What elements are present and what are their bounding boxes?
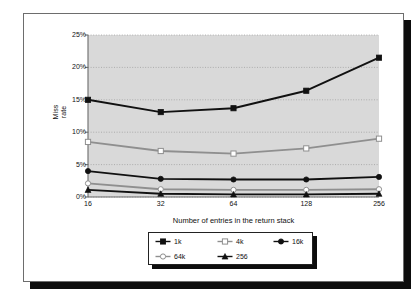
x-axis-tick-labels: 163264128256 (24, 200, 403, 212)
legend-item-4k[interactable]: 4k (211, 234, 267, 249)
legend-label: 1k (174, 238, 181, 245)
x-tick-label: 16 (73, 200, 103, 208)
series-layer (85, 55, 382, 197)
chart-legend: 1k4k16k64k256 (148, 232, 313, 265)
y-tick-label: 5% (56, 161, 86, 169)
figure-page: 0%5%10%15%20%25% 163264128256 Miss rate … (23, 13, 404, 282)
legend-marker-circle-open-icon (155, 252, 171, 261)
legend-item-256[interactable]: 256 (211, 249, 267, 264)
legend-item-1k[interactable]: 1k (149, 234, 211, 249)
y-axis-title-line1: Miss (52, 105, 61, 120)
y-axis-title-line2: rate (60, 106, 69, 118)
legend-marker-circle-filled-icon (273, 237, 289, 246)
legend-marker-triangle-filled-icon (217, 252, 233, 261)
x-tick-label: 32 (146, 200, 176, 208)
x-axis-title: Number of entries in the return stack (88, 216, 379, 225)
legend-item-16k[interactable]: 16k (267, 234, 312, 249)
x-tick-label: 256 (364, 200, 394, 208)
y-tick-label: 25% (56, 31, 86, 39)
legend-label: 16k (292, 238, 303, 245)
legend-label: 64k (174, 253, 185, 260)
legend-item-64k[interactable]: 64k (149, 249, 211, 264)
chart-canvas: 0%5%10%15%20%25% 163264128256 Miss rate … (24, 14, 403, 281)
y-tick-label: 20% (56, 63, 86, 71)
series-16k (85, 168, 381, 182)
y-axis-tick-labels: 0%5%10%15%20%25% (52, 14, 86, 281)
series-4k (85, 136, 381, 156)
gridlines (88, 35, 379, 197)
series-64k (85, 181, 381, 193)
y-axis-title: Miss rate (40, 84, 80, 140)
legend-items: 1k4k16k64k256 (149, 233, 312, 264)
axis-lines (88, 35, 379, 197)
series-1k (85, 55, 381, 115)
x-tick-label: 64 (219, 200, 249, 208)
figure-root: 0%5%10%15%20%25% 163264128256 Miss rate … (0, 0, 418, 296)
legend-marker-square-filled-icon (155, 237, 171, 246)
legend-label: 256 (236, 253, 248, 260)
legend-label: 4k (236, 238, 243, 245)
legend-marker-square-open-icon (217, 237, 233, 246)
x-tick-label: 128 (291, 200, 321, 208)
